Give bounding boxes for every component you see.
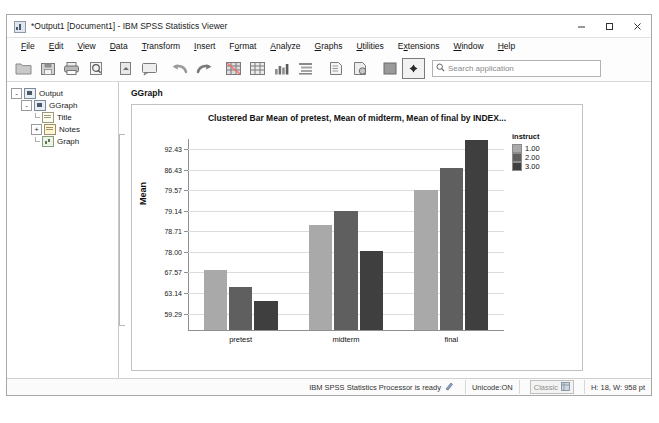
outline-node-label: Graph <box>57 137 79 146</box>
y-tick-label: 78.00 <box>148 248 182 255</box>
y-tick-label: 59.29 <box>148 310 182 317</box>
minimize-icon[interactable] <box>567 15 595 37</box>
search-placeholder: Search application <box>448 64 514 73</box>
graph-icon <box>42 136 54 147</box>
legend-label: 3.00 <box>525 162 540 171</box>
y-tick-mark <box>184 170 188 171</box>
legend-item-1.00: 1.00 <box>512 144 574 152</box>
menu-item-file[interactable]: File <box>14 38 42 55</box>
bar-final-2.00[interactable] <box>440 168 463 330</box>
outline-node-ggraph[interactable]: -GGraph <box>11 99 118 111</box>
output-item-marker <box>119 134 125 326</box>
tree-expander-ggraph[interactable]: - <box>21 100 32 111</box>
legend-swatch <box>512 153 522 162</box>
spss-viewer-window: *Output1 [Document1] - IBM SPSS Statisti… <box>6 14 652 396</box>
chart-title: Clustered Bar Mean of pretest, Mean of m… <box>132 113 582 123</box>
menu-item-graphs[interactable]: Graphs <box>308 38 350 55</box>
x-category-label-final: final <box>399 335 504 344</box>
y-tick-mark <box>184 149 188 150</box>
ggraph-icon <box>34 100 46 111</box>
search-icon <box>436 63 445 74</box>
print-preview-icon[interactable] <box>84 57 107 79</box>
bar-pretest-1.00[interactable] <box>204 270 227 330</box>
y-tick-mark <box>184 293 188 294</box>
y-axis-line <box>188 139 189 331</box>
legend-swatch <box>512 144 522 153</box>
menu-item-transform[interactable]: Transform <box>135 38 187 55</box>
save-icon[interactable] <box>36 57 59 79</box>
status-bar: IBM SPSS Statistics Processor is ready U… <box>7 378 651 395</box>
variables-icon[interactable] <box>246 57 269 79</box>
insert-text-icon[interactable] <box>324 57 347 79</box>
dialog-recall-icon[interactable] <box>138 57 161 79</box>
classic-icon <box>561 382 570 393</box>
menu-item-edit[interactable]: Edit <box>42 38 71 55</box>
redo-icon[interactable] <box>192 57 215 79</box>
search-input[interactable]: Search application <box>432 60 601 77</box>
maximize-icon[interactable] <box>595 15 623 37</box>
toolbar: Search application <box>7 55 651 82</box>
output-pane[interactable]: GGraph Clustered Bar Mean of pretest, Me… <box>119 82 651 378</box>
goto-data-icon[interactable] <box>222 57 245 79</box>
run-descriptives-icon[interactable] <box>270 57 293 79</box>
legend-swatch <box>512 162 522 171</box>
outline-node-graph[interactable]: Graph <box>11 135 118 147</box>
title-bar: *Output1 [Document1] - IBM SPSS Statisti… <box>7 15 651 38</box>
outline-node-output[interactable]: -Output <box>11 87 118 99</box>
menu-item-format[interactable]: Format <box>222 38 263 55</box>
outline-pane[interactable]: -Output-GGraphTitle+NotesGraph <box>7 82 119 378</box>
y-tick-label: 79.57 <box>148 187 182 194</box>
bar-pretest-2.00[interactable] <box>229 287 252 330</box>
open-file-icon[interactable] <box>12 57 35 79</box>
legend-item-2.00: 2.00 <box>512 153 574 161</box>
x-category-label-midterm: midterm <box>293 335 398 344</box>
bar-final-1.00[interactable] <box>414 190 437 330</box>
dimensions-status: H: 18, W: 958 pt <box>584 380 651 394</box>
legend-label: 1.00 <box>525 144 540 153</box>
menu-item-data[interactable]: Data <box>103 38 135 55</box>
insert-object-icon[interactable] <box>348 57 371 79</box>
tree-expander-output[interactable]: - <box>11 88 22 99</box>
menu-item-insert[interactable]: Insert <box>187 38 222 55</box>
bar-midterm-1.00[interactable] <box>309 225 332 330</box>
unicode-status: Unicode:ON <box>465 380 519 394</box>
spss-icon <box>13 20 26 33</box>
menu-item-help[interactable]: Help <box>491 38 522 55</box>
outline-icon[interactable] <box>294 57 317 79</box>
legend-label: 2.00 <box>525 153 540 162</box>
outline-node-label: Title <box>57 113 72 122</box>
show-hide-icon[interactable] <box>378 57 401 79</box>
chart-legend: instruct 1.002.003.00 <box>512 132 574 171</box>
tree-expander-notes[interactable]: + <box>31 124 42 135</box>
bar-final-3.00[interactable] <box>465 140 488 330</box>
x-category-label-pretest: pretest <box>188 335 293 344</box>
bar-midterm-3.00[interactable] <box>360 251 383 330</box>
menu-item-utilities[interactable]: Utilities <box>349 38 390 55</box>
y-tick-mark <box>184 231 188 232</box>
chart-container[interactable]: Clustered Bar Mean of pretest, Mean of m… <box>131 104 583 371</box>
outline-node-notes[interactable]: +Notes <box>11 123 118 135</box>
close-icon[interactable] <box>623 15 651 37</box>
menu-item-view[interactable]: View <box>70 38 102 55</box>
title-icon <box>42 112 54 123</box>
outline-node-label: Output <box>39 89 63 98</box>
y-tick-label: 79.14 <box>148 207 182 214</box>
classic-mode-button[interactable]: Classic <box>530 380 574 394</box>
menu-item-extensions[interactable]: Extensions <box>391 38 447 55</box>
classic-mode-label: Classic <box>534 383 558 392</box>
output-block-label: GGraph <box>131 88 163 98</box>
legend-item-3.00: 3.00 <box>512 162 574 170</box>
export-icon[interactable] <box>114 57 137 79</box>
menu-item-analyze[interactable]: Analyze <box>263 38 307 55</box>
plot-area <box>188 139 504 331</box>
print-icon[interactable] <box>60 57 83 79</box>
select-marker-icon[interactable] <box>402 58 425 79</box>
bar-midterm-2.00[interactable] <box>334 211 357 330</box>
undo-icon[interactable] <box>168 57 191 79</box>
outline-node-title[interactable]: Title <box>11 111 118 123</box>
bar-pretest-3.00[interactable] <box>254 301 277 330</box>
menu-item-window[interactable]: Window <box>446 38 490 55</box>
work-area: -Output-GGraphTitle+NotesGraph GGraph Cl… <box>7 82 651 378</box>
y-tick-mark <box>184 190 188 191</box>
x-axis-line <box>188 330 504 331</box>
